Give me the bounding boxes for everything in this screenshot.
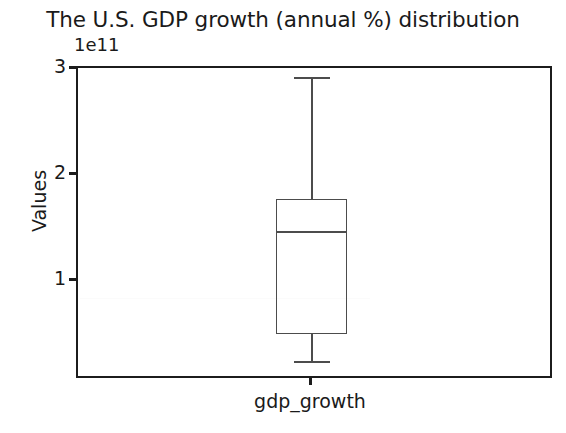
whisker-cap-lower bbox=[294, 361, 330, 363]
y-tick-mark-3 bbox=[69, 66, 76, 69]
y-tick-mark-2 bbox=[69, 172, 76, 175]
box-iqr bbox=[276, 199, 347, 334]
x-tick-mark-gdp-growth bbox=[309, 378, 312, 385]
whisker-stem-lower bbox=[311, 334, 313, 362]
y-tick-label-1: 1 bbox=[26, 267, 66, 289]
x-tick-label-gdp-growth: gdp_growth bbox=[210, 390, 410, 412]
y-axis-offset-label: 1e11 bbox=[74, 34, 119, 55]
y-tick-label-3: 3 bbox=[26, 55, 66, 77]
median-line bbox=[276, 231, 347, 233]
y-axis-label: Values bbox=[28, 141, 50, 261]
y-tick-mark-1 bbox=[69, 278, 76, 281]
page-title: The U.S. GDP growth (annual %) distribut… bbox=[0, 7, 566, 32]
whisker-stem-upper bbox=[311, 77, 313, 199]
chart-figure: The U.S. GDP growth (annual %) distribut… bbox=[0, 0, 566, 433]
y-tick-label-2: 2 bbox=[26, 161, 66, 183]
plot-area bbox=[76, 66, 552, 378]
